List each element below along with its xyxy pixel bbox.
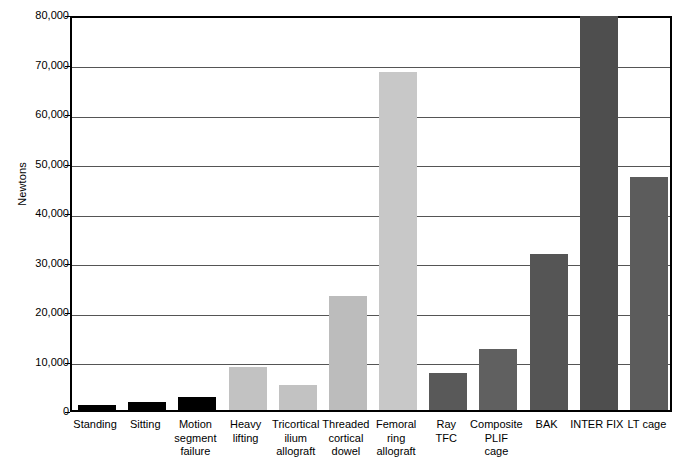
bar (580, 16, 618, 410)
bar (479, 349, 517, 410)
y-tick-label: 80,000 (9, 10, 69, 21)
bar (78, 405, 116, 410)
y-tick-label: 60,000 (9, 109, 69, 120)
y-tick-label: 20,000 (9, 307, 69, 318)
y-tick-label: 30,000 (9, 258, 69, 269)
bar (128, 402, 166, 410)
bar (279, 385, 317, 410)
bar (329, 296, 367, 410)
y-tick-label: 40,000 (9, 208, 69, 219)
y-tick-label: 50,000 (9, 159, 69, 170)
bar (429, 373, 467, 410)
bar-chart: Newtons 010,00020,00030,00040,00050,0006… (0, 0, 681, 468)
y-tick-label: 0 (9, 406, 69, 417)
y-tick-mark (65, 412, 70, 413)
bar (379, 72, 417, 410)
x-tick-label: LT cage (616, 418, 678, 432)
bar (630, 177, 668, 410)
plot-area (70, 16, 672, 412)
y-tick-label: 70,000 (9, 60, 69, 71)
bar (530, 254, 568, 410)
y-tick-label: 10,000 (9, 357, 69, 368)
bar (178, 397, 216, 410)
bar (229, 367, 267, 410)
